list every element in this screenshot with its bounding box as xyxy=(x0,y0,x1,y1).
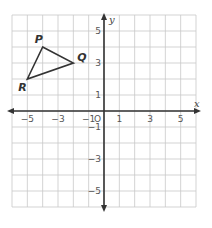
x-tick-label: −3 xyxy=(51,114,64,124)
x-tick-label: 3 xyxy=(147,114,153,124)
origin-label: O xyxy=(94,114,101,124)
y-axis-label: y xyxy=(108,14,115,25)
y-tick-label: −3 xyxy=(88,154,101,164)
x-tick-label: 5 xyxy=(178,114,184,124)
y-tick-label: 1 xyxy=(95,90,101,100)
x-tick-label: −5 xyxy=(21,114,34,124)
x-tick-label: 1 xyxy=(116,114,122,124)
vertex-label-q: Q xyxy=(77,51,86,64)
x-axis-arrow-left-icon xyxy=(7,108,14,114)
y-axis-arrow-up-icon xyxy=(101,13,107,20)
vertex-label-p: P xyxy=(35,33,43,46)
y-tick-label: 5 xyxy=(95,26,101,36)
y-axis-arrow-down-icon xyxy=(101,205,107,212)
coordinate-plane: xy −5−3−1135531−1−3−5O PQR xyxy=(0,0,212,228)
x-axis-label: x xyxy=(194,98,200,109)
vertex-label-r: R xyxy=(18,81,26,94)
y-tick-label: −5 xyxy=(88,186,101,196)
triangle-pqr: PQR xyxy=(18,33,86,94)
y-tick-label: 3 xyxy=(95,58,101,68)
